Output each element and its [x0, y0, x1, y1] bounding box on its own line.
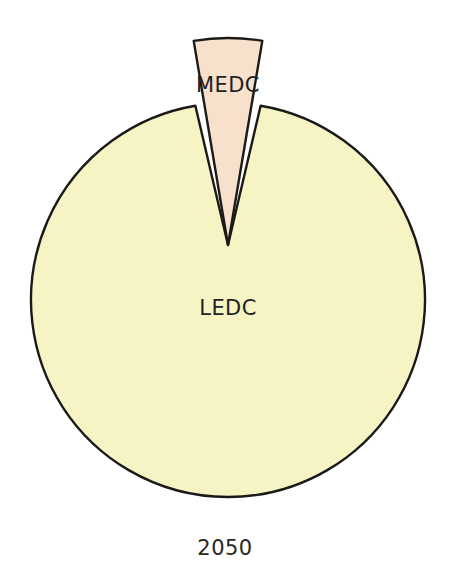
- pie-slice-label-medc: MEDC: [196, 73, 260, 97]
- chart-year-caption: 2050: [0, 536, 450, 560]
- pie-chart-svg: MEDC LEDC: [0, 0, 450, 569]
- pie-chart-figure: MEDC LEDC 2050: [0, 0, 450, 569]
- pie-slice-label-ledc: LEDC: [199, 296, 256, 320]
